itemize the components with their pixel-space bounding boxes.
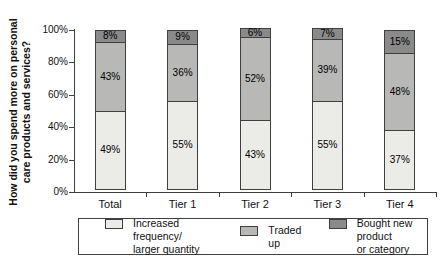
legend-item-traded-up: Traded up — [240, 224, 314, 250]
y-tick-label: 60% — [26, 89, 68, 100]
y-tick-mark — [69, 30, 74, 31]
bar-value-label: 8% — [103, 31, 117, 41]
y-tick-mark — [69, 160, 74, 161]
bar-value-label: 36% — [173, 68, 193, 78]
x-tick-mark — [364, 192, 365, 197]
y-tick-label: 80% — [26, 56, 68, 67]
bar-value-label: 7% — [320, 29, 334, 39]
bar-segment: 43% — [95, 42, 126, 112]
bar-value-label: 39% — [317, 65, 337, 75]
bar-segment: 15% — [384, 30, 415, 54]
bar-segment: 55% — [312, 101, 343, 190]
legend-label-traded-up: Traded up — [268, 224, 314, 250]
bar-tier-3: 7%39%55% — [312, 28, 343, 190]
bar-total: 8%43%49% — [95, 30, 126, 190]
bar-value-label: 52% — [245, 74, 265, 84]
category-label: Total — [78, 198, 142, 210]
bar-tier-1: 9%36%55% — [167, 30, 198, 190]
bar-value-label: 43% — [100, 72, 120, 82]
bar-segment: 39% — [312, 39, 343, 102]
legend-label-bought-new-product: Bought new product or category — [357, 217, 427, 256]
y-tick-mark — [69, 62, 74, 63]
bar-value-label: 55% — [173, 140, 193, 150]
x-tick-mark — [291, 192, 292, 197]
x-tick-mark — [146, 192, 147, 197]
bar-tier-2: 6%52%43% — [240, 28, 271, 190]
y-tick-mark — [69, 192, 74, 193]
bar-value-label: 43% — [245, 150, 265, 160]
category-label: Tier 4 — [368, 198, 432, 210]
x-tick-mark — [219, 192, 220, 197]
legend-item-increased-frequency: Increased frequency/ larger quantity — [105, 217, 226, 256]
legend-swatch-bought-new-product — [329, 219, 347, 229]
y-tick-label: 0% — [26, 186, 68, 197]
y-axis-label-line1: How did you spend more on personal — [7, 14, 20, 210]
legend-swatch-increased-frequency — [105, 219, 123, 229]
legend-swatch-traded-up — [240, 226, 258, 236]
bar-segment: 36% — [167, 44, 198, 102]
bar-value-label: 49% — [100, 145, 120, 155]
y-axis-label: How did you spend more on personal care … — [7, 14, 37, 210]
bar-segment: 43% — [240, 120, 271, 190]
y-axis-label-line2: care products and services? — [20, 14, 33, 210]
legend-label-increased-frequency: Increased frequency/ larger quantity — [133, 217, 226, 256]
stacked-bar-chart-figure: How did you spend more on personal care … — [0, 0, 447, 270]
y-axis-line — [74, 29, 75, 192]
y-tick-label: 100% — [26, 24, 68, 35]
bar-value-label: 37% — [390, 155, 410, 165]
bar-segment: 48% — [384, 53, 415, 131]
bar-tier-4: 15%48%37% — [384, 30, 415, 190]
legend: Increased frequency/ larger quantity Tra… — [78, 218, 428, 255]
category-label: Tier 2 — [223, 198, 287, 210]
x-axis-line — [74, 192, 437, 193]
category-label: Tier 1 — [151, 198, 215, 210]
y-tick-label: 40% — [26, 121, 68, 132]
bar-segment: 9% — [167, 30, 198, 45]
bar-value-label: 9% — [175, 32, 189, 42]
y-tick-mark — [69, 127, 74, 128]
legend-item-bought-new-product: Bought new product or category — [329, 217, 427, 256]
bar-segment: 52% — [240, 37, 271, 121]
bar-value-label: 15% — [390, 37, 410, 47]
y-tick-label: 20% — [26, 154, 68, 165]
bar-segment: 37% — [384, 130, 415, 190]
category-label: Tier 3 — [295, 198, 359, 210]
bar-value-label: 55% — [317, 140, 337, 150]
bar-segment: 49% — [95, 111, 126, 190]
bar-value-label: 48% — [390, 87, 410, 97]
bar-segment: 55% — [167, 101, 198, 190]
y-tick-mark — [69, 95, 74, 96]
x-tick-mark — [436, 192, 437, 197]
